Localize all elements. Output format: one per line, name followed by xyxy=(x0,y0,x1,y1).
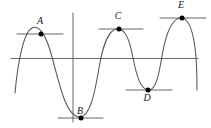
point-dot-e xyxy=(180,16,185,21)
point-dot-b xyxy=(79,116,84,121)
point-label-e: E xyxy=(177,0,184,10)
critical-point-e: E xyxy=(160,0,206,21)
critical-point-markers: ABCDE xyxy=(17,0,206,121)
point-dot-c xyxy=(117,27,122,32)
point-label-b: B xyxy=(77,105,83,116)
graph-canvas: ABCDE xyxy=(0,0,211,128)
critical-point-a: A xyxy=(17,15,63,37)
point-dot-a xyxy=(39,32,44,37)
point-label-c: C xyxy=(115,10,122,21)
critical-point-d: D xyxy=(126,88,172,104)
point-label-a: A xyxy=(36,15,44,26)
critical-point-c: C xyxy=(99,10,143,32)
point-label-d: D xyxy=(142,92,151,103)
graph-figure: ABCDE xyxy=(0,0,211,128)
critical-point-b: B xyxy=(58,105,103,121)
